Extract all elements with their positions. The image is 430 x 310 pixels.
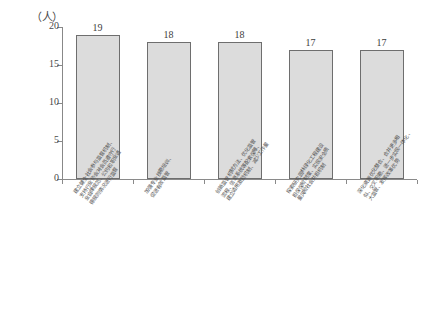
x-tick-mark xyxy=(204,180,205,184)
y-tick-label: 0 xyxy=(54,172,59,183)
bar-value-label: 19 xyxy=(93,22,103,33)
y-tick-label: 10 xyxy=(49,96,59,107)
bar-value-label: 18 xyxy=(164,29,174,40)
x-tick-mark xyxy=(62,180,63,184)
y-tick-label: 15 xyxy=(49,58,59,69)
x-tick-mark xyxy=(346,180,347,184)
bar-chart: （人） 05101520 1918181717 建立健全社会参与监督机制、支持行… xyxy=(0,0,430,310)
bar-value-label: 17 xyxy=(377,37,387,48)
x-tick-mark xyxy=(133,180,134,184)
bar-value-label: 18 xyxy=(235,29,245,40)
x-tick-mark xyxy=(275,180,276,184)
bar-value-label: 17 xyxy=(306,37,316,48)
y-tick-label: 20 xyxy=(49,20,59,31)
x-tick-mark xyxy=(417,180,418,184)
y-axis-line xyxy=(62,27,63,179)
y-tick-label: 5 xyxy=(54,134,59,145)
